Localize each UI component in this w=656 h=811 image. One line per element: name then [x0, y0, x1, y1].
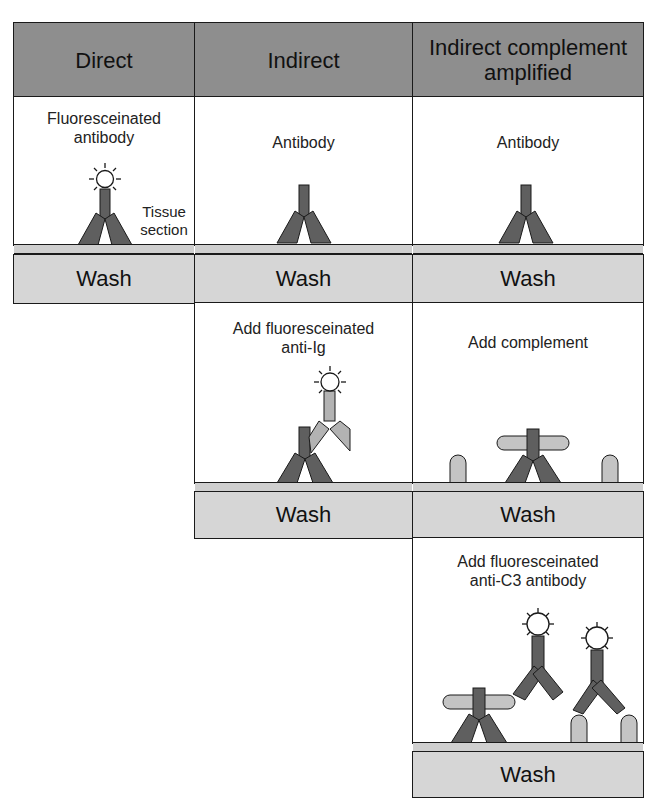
wash-step-indirect-2: Wash	[194, 491, 413, 539]
wash-step-direct-1: Wash	[13, 254, 195, 304]
step-panel-complement-1: Antibody	[412, 96, 644, 246]
complement-c3-icon	[571, 715, 637, 743]
antibody-icon	[513, 636, 563, 700]
column-header-indirect-complement-amplified: Indirect complement amplified	[412, 22, 644, 98]
column-header-indirect: Indirect	[194, 22, 413, 98]
wash-label: Wash	[276, 502, 331, 528]
step-panel-complement-3: Add fluoresceinated anti-C3 antibody	[412, 537, 644, 744]
column-header-direct: Direct	[13, 22, 195, 98]
fluorescein-glow-icon	[314, 366, 346, 393]
tissue-section	[413, 244, 643, 254]
tissue-section	[14, 244, 194, 254]
direct-diagram	[14, 97, 196, 247]
wash-label: Wash	[500, 266, 555, 292]
tissue-section	[195, 244, 412, 254]
wash-step-complement-3: Wash	[412, 751, 644, 798]
wash-label: Wash	[76, 266, 131, 292]
step-panel-complement-2: Add complement	[412, 302, 644, 484]
antibody-icon	[78, 189, 132, 245]
step-panel-direct-1: Fluoresceinated antibody Tissue section	[13, 96, 195, 246]
step-panel-indirect-1: Antibody	[194, 96, 413, 246]
wash-label: Wash	[276, 266, 331, 292]
fluorescein-glow-icon	[581, 622, 613, 649]
column-header-label: Indirect	[267, 48, 339, 73]
antibody-icon	[573, 650, 625, 714]
complement-step2-diagram	[413, 303, 645, 485]
wash-label: Wash	[500, 502, 555, 528]
step-panel-indirect-2: Add fluoresceinated anti-Ig	[194, 302, 413, 484]
column-header-label-line1: Indirect complement	[429, 35, 627, 60]
complement-step3-diagram	[413, 538, 645, 745]
indirect-step2-diagram	[195, 303, 414, 485]
wash-step-indirect-1: Wash	[194, 254, 413, 304]
complement-step1-diagram	[413, 97, 645, 247]
column-header-label: Direct	[75, 48, 132, 73]
column-header-label-line2: amplified	[484, 60, 572, 85]
wash-step-complement-2: Wash	[412, 491, 644, 539]
wash-label: Wash	[500, 762, 555, 788]
antibody-icon	[499, 185, 553, 243]
anti-ig-antibody-icon	[309, 391, 350, 453]
indirect-step1-diagram	[195, 97, 414, 247]
antibody-icon	[277, 185, 331, 243]
wash-step-complement-1: Wash	[412, 254, 644, 304]
fluorescein-glow-icon	[522, 608, 554, 635]
